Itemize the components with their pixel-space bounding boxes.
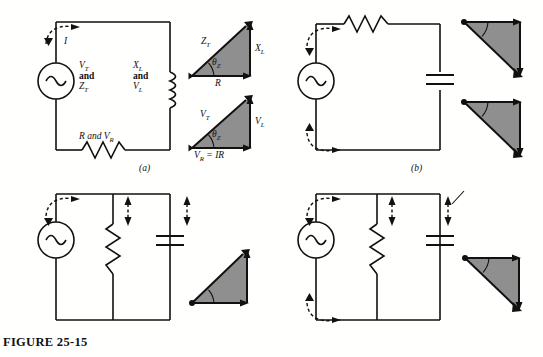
panel-a: VT and ZT XL and VL R and VR I ZT XL R [0,0,272,180]
figure-caption: FIGURE 25-15 [3,335,88,350]
triangle-b-voltage-graphic [272,0,543,180]
triangle-c-current-graphic [0,180,272,357]
triangle-a-voltage-graphic [0,0,272,180]
panel-c: VA and ZT IT IR IC IT IC θI I R , V A , … [0,180,272,357]
panel-a-name: (a) [139,163,150,173]
triangle-a-voltage-angle-label: θZ [212,129,220,142]
panel-d: VA and ZT IT IT IR IL I R , V A , or Z T… [272,180,543,357]
panel-b: R and VR VT and ZT XC and VC I I R XC ZT… [272,0,543,180]
triangle-a-voltage-horizontal-label: VR = IR [194,150,224,163]
triangle-d-current-graphic [272,180,543,357]
triangle-a-voltage-vertical-label: VL [255,116,265,129]
panel-b-name: (b) [411,163,422,173]
triangle-a-voltage-hypotenuse-label: VT [200,109,210,122]
